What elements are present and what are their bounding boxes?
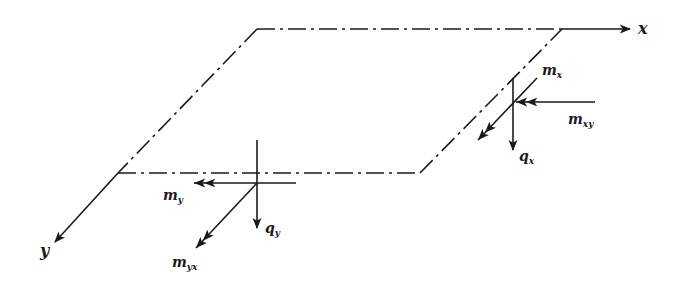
myx-double-arrow xyxy=(196,183,257,248)
my-label: my xyxy=(163,187,184,205)
y-axis-label: y xyxy=(39,241,51,260)
qx-label: qx xyxy=(519,148,535,166)
plate-left-edge xyxy=(118,29,257,173)
plate-right-edge xyxy=(420,29,562,173)
front-edge-forces xyxy=(194,140,296,248)
plate-diagram: x y mx mxy qx my myx qy xyxy=(0,0,684,286)
y-axis-arrow xyxy=(55,173,118,242)
plate-outline xyxy=(118,29,562,173)
qy-label: qy xyxy=(265,220,281,238)
mx-double-arrow xyxy=(478,78,537,140)
x-axis-label: x xyxy=(637,19,648,38)
myx-label: myx xyxy=(172,254,198,272)
axes xyxy=(55,29,630,242)
mxy-label: mxy xyxy=(568,111,594,129)
mx-label: mx xyxy=(542,62,563,80)
